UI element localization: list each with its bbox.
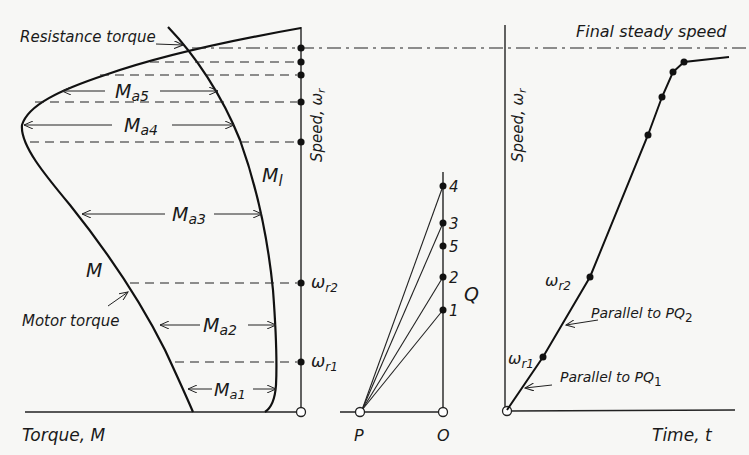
svg-text:Ma5: Ma5 [115,80,149,104]
parallel-pq2-pointer [566,320,598,325]
wr1-label: ωr1 [311,351,338,374]
point-3 [440,220,447,227]
speed-time-construction-diagram: Ma5 Ma4 Ma3 Ma2 Ma1 Resistance torque M … [0,0,749,455]
left-speed-axis-label: Speed, ωr [308,87,328,162]
curve-point [670,69,677,76]
final-steady-speed-label: Final steady speed [576,22,727,41]
curve-point [645,132,652,139]
motor-torque-curve [22,28,301,412]
p-label: P [354,426,364,445]
q-label: Q [464,283,479,305]
speed-point-wr1 [297,358,304,365]
wr2-label: ωr2 [311,272,338,295]
middle-construction-plot: 4 3 5 2 1 Q P O [340,172,479,445]
ray-p-1 [362,310,443,410]
right-wr1-label: ωr1 [508,349,534,371]
motor-torque-label: Motor torque [22,312,120,330]
speed-point [297,138,304,145]
curve-point [659,94,666,101]
accel-torque-ma4: Ma4 [24,114,234,138]
o-label: O [437,426,450,445]
motor-curve-symbol: M [86,259,102,281]
right-wr2-label: ωr2 [545,271,571,293]
svg-text:Ma4: Ma4 [124,114,158,138]
accel-torque-ma2: Ma2 [160,314,276,338]
point-1-label: 1 [449,302,459,320]
speed-point [297,71,304,78]
parallel-pq2-label: Parallel to PQ2 [591,305,693,325]
curve-point-wr1 [540,354,547,361]
point-5-label: 5 [449,238,459,256]
point-4 [440,183,447,190]
speed-point [297,98,304,105]
parallel-pq1-pointer [525,385,552,388]
resistance-torque-label: Resistance torque [20,28,156,46]
point-2-label: 2 [449,269,459,287]
accel-torque-ma3: Ma3 [82,203,262,227]
torque-axis-label: Torque, M [22,425,106,445]
point-3-label: 3 [449,215,459,233]
speed-axis-origin [297,408,306,417]
parallel-pq1-label: Parallel to PQ1 [560,369,662,389]
right-origin [503,407,512,416]
speed-point [297,58,304,65]
svg-text:Ma2: Ma2 [203,314,237,338]
pole-p [356,408,365,417]
speed-point-wr2 [297,279,304,286]
point-4-label: 4 [449,178,459,196]
time-axis [510,410,735,411]
curve-point-wr2 [587,274,594,281]
accel-torque-ma5: Ma5 [62,80,218,104]
point-5 [440,243,447,250]
point-1 [440,307,447,314]
time-axis-label: Time, t [652,425,713,445]
speed-point [297,44,304,51]
origin-o [439,408,448,417]
accel-torque-ma1: Ma1 [188,379,276,402]
point-2 [440,274,447,281]
curve-point [681,59,688,66]
right-speed-time-plot: Final steady speed Speed, ωr ωr2 ωr1 Par… [503,22,736,445]
svg-text:Ma3: Ma3 [172,203,206,227]
resistance-torque-pointer [156,44,183,45]
right-speed-axis-label: Speed, ωr [509,87,529,162]
ray-p-3 [362,223,443,410]
load-curve-symbol: Ml [262,164,283,190]
motor-torque-pointer [108,292,128,306]
svg-text:Ma1: Ma1 [214,379,246,402]
